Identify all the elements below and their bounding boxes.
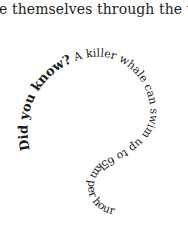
did-you-know-heading: Did you know? bbox=[15, 51, 73, 152]
curved-fact-text: Did you know? A killer whale can swim up… bbox=[15, 46, 160, 217]
fact-text: A killer whale can swim up to 65km per h… bbox=[68, 46, 160, 217]
document-page: e themselves through the water Did you k… bbox=[0, 0, 188, 243]
curved-text-graphic: Did you know? A killer whale can swim up… bbox=[0, 0, 188, 243]
